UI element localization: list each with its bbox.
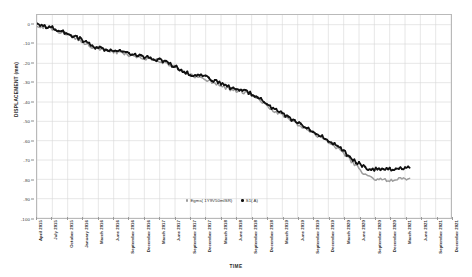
x-tick-label: March 2019 xyxy=(284,220,289,244)
x-tick-label: September 2016 xyxy=(130,220,135,254)
x-axis-title: TIME xyxy=(0,264,472,269)
y-tick-label: -70 xyxy=(23,158,30,163)
x-tick-label: December 2016 xyxy=(146,220,151,252)
x-tick-label: September 2021 xyxy=(438,220,443,254)
x-tick-mark xyxy=(344,217,345,220)
y-tick-label: -40 xyxy=(23,99,30,104)
x-tick-label: December 2021 xyxy=(454,220,459,252)
x-tick-label: July 2015 xyxy=(53,220,58,240)
y-tick-label: -60 xyxy=(23,138,30,143)
y-tick-mark xyxy=(31,62,34,63)
y-tick-mark xyxy=(31,179,34,180)
displacement-time-series-chart: 0-10-20-30-40-50-60-70-80-90-100 DISPLAC… xyxy=(0,0,472,277)
y-tick-label: -30 xyxy=(23,80,30,85)
x-tick-label: June 2020 xyxy=(361,220,366,241)
plot-area xyxy=(36,14,452,219)
y-tick-label: -10 xyxy=(23,41,30,46)
x-tick-label: June 2019 xyxy=(300,220,305,241)
x-tick-label: December 2020 xyxy=(392,220,397,252)
x-tick-label: December 2018 xyxy=(269,220,274,252)
y-tick-mark xyxy=(31,160,34,161)
x-tick-mark xyxy=(144,217,145,220)
y-tick-label: -90 xyxy=(23,197,30,202)
x-tick-label: June 2018 xyxy=(238,220,243,241)
y-tick-mark xyxy=(31,101,34,102)
x-tick-label: December 2019 xyxy=(330,220,335,252)
x-tick-label: March 2017 xyxy=(161,220,166,244)
y-tick-label: -50 xyxy=(23,119,30,124)
x-tick-label: September 2019 xyxy=(315,220,320,254)
y-tick-mark xyxy=(31,82,34,83)
legend-item[interactable]: S1( A) xyxy=(241,198,258,203)
chart-legend: Egms( 1Y9V50mISR)S1( A) xyxy=(186,198,258,203)
x-tick-mark xyxy=(267,217,268,220)
y-tick-mark xyxy=(31,121,34,122)
x-tick-label: September 2017 xyxy=(192,220,197,254)
x-tick-mark xyxy=(298,217,299,220)
y-tick-mark xyxy=(31,199,34,200)
x-tick-mark xyxy=(375,217,376,220)
x-tick-label: September 2018 xyxy=(253,220,258,254)
x-axis-tick-labels: April 2015July 2015October 2015January 2… xyxy=(36,220,452,262)
x-tick-mark xyxy=(221,217,222,220)
legend-swatch-icon xyxy=(186,199,188,201)
x-tick-label: March 2021 xyxy=(407,220,412,244)
x-tick-label: December 2017 xyxy=(207,220,212,252)
y-tick-label: -20 xyxy=(23,60,30,65)
y-tick-label: -100 xyxy=(21,217,30,222)
x-tick-label: April 2015 xyxy=(38,220,43,241)
legend-label: Egms( 1Y9V50mISR) xyxy=(190,198,232,203)
y-tick-label: 0 xyxy=(27,21,30,26)
legend-swatch-icon xyxy=(241,199,243,201)
x-tick-mark xyxy=(452,217,453,220)
x-tick-mark xyxy=(190,217,191,220)
x-tick-label: March 2016 xyxy=(99,220,104,244)
x-tick-mark xyxy=(113,217,114,220)
x-tick-label: January 2016 xyxy=(84,220,89,248)
x-tick-label: March 2020 xyxy=(346,220,351,244)
x-tick-label: June 2021 xyxy=(423,220,428,241)
data-series-layer xyxy=(37,15,451,218)
legend-item[interactable]: Egms( 1Y9V50mISR) xyxy=(186,198,232,203)
x-tick-label: September 2020 xyxy=(377,220,382,254)
x-tick-mark xyxy=(36,217,37,220)
y-tick-label: -80 xyxy=(23,177,30,182)
y-tick-mark xyxy=(31,43,34,44)
x-tick-label: October 2015 xyxy=(69,220,74,248)
legend-label: S1( A) xyxy=(246,198,258,203)
x-tick-label: March 2018 xyxy=(223,220,228,244)
x-tick-mark xyxy=(67,217,68,220)
x-tick-label: June 2016 xyxy=(115,220,120,241)
y-tick-mark xyxy=(31,23,34,24)
y-tick-mark xyxy=(31,219,34,220)
y-tick-mark xyxy=(31,140,34,141)
y-axis-title: DISPLACEMENT (mm) xyxy=(14,62,19,117)
x-tick-label: June 2017 xyxy=(176,220,181,241)
